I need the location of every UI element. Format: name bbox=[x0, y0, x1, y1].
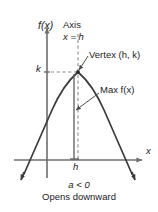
parabola-figure: f(x) Axis x = h Vertex (h, k) Max f(x) k… bbox=[0, 0, 158, 212]
max-value-label: Max f(x) bbox=[100, 85, 134, 95]
vertex-point bbox=[76, 70, 80, 74]
axis-of-symmetry-equation: x = h bbox=[63, 32, 84, 42]
vertex-leader-line bbox=[79, 56, 88, 70]
x-axis-tick-label-h: h bbox=[73, 162, 78, 172]
vertex-label: Vertex (h, k) bbox=[89, 50, 140, 60]
max-leader-line bbox=[76, 93, 99, 110]
parabola-right-arrow bbox=[132, 172, 135, 180]
caption-opens-direction: Opens downward bbox=[0, 192, 158, 202]
caption-leading-coefficient: a < 0 bbox=[0, 180, 158, 190]
y-axis-tick-label-k: k bbox=[36, 64, 41, 74]
axis-of-symmetry-title: Axis bbox=[63, 20, 81, 30]
x-axis-label: x bbox=[146, 146, 151, 156]
y-axis-label: f(x) bbox=[38, 20, 53, 31]
parabola-left-arrow bbox=[21, 172, 24, 180]
